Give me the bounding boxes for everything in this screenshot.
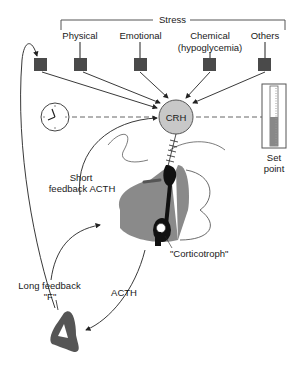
acth-label: ACTH [108, 287, 140, 298]
set-point-line1: Set [260, 152, 288, 163]
short-feedback-line2: feedback ACTH [42, 183, 122, 194]
corticotroph-label: "Corticotroph" [170, 248, 229, 259]
crh-label: CRH [160, 112, 192, 123]
long-feedback-line1: Long feedback [12, 280, 87, 291]
long-feedback-line2: "F" [40, 291, 60, 302]
stress-title: Stress [155, 14, 190, 25]
set-point-line2: point [260, 163, 288, 174]
clock-icon [41, 103, 69, 131]
stress-arrows [42, 72, 265, 108]
short-feedback-line1: Short [65, 172, 97, 183]
stressor-physical: Physical [55, 30, 105, 41]
long-feedback-loop [21, 44, 55, 308]
stressor-chemical: Chemical [180, 30, 240, 41]
stressor-others: Others [245, 30, 285, 41]
stressor-square-icon [34, 58, 271, 71]
thermometer-set-point-icon [262, 84, 286, 148]
stressor-emotional: Emotional [113, 30, 168, 41]
stressor-chemical-sub: (hypoglycemia) [170, 42, 250, 53]
